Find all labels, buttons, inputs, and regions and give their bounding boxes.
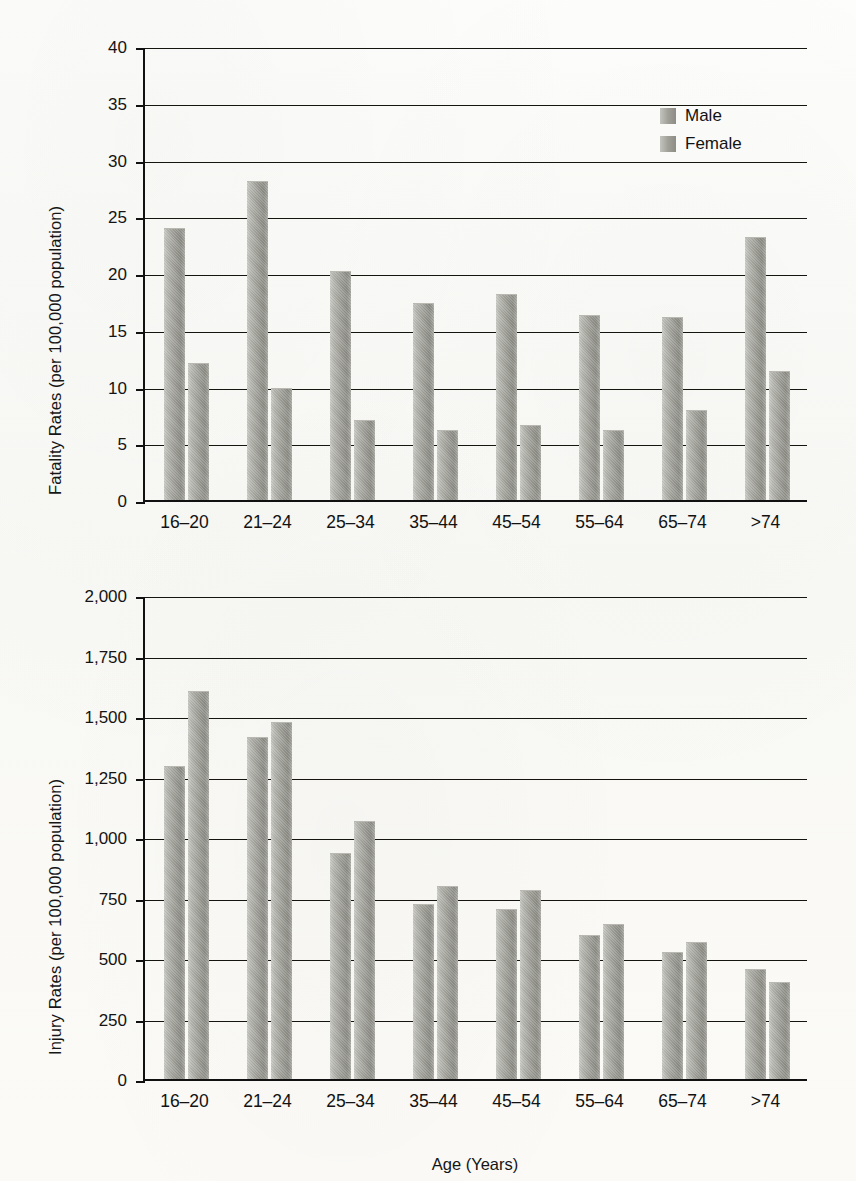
y-tick-mark [136,332,145,334]
bars-injury [145,597,807,1079]
y-tick-label: 250 [99,1011,127,1031]
y-tick-mark [136,718,145,720]
bar-male [247,181,268,500]
y-tick-mark [136,162,145,164]
bar-group [394,597,477,1079]
legend-label-female: Female [685,135,742,152]
y-tick-mark [136,1081,145,1083]
x-tick-label: >74 [724,512,807,533]
y-tick-mark [136,900,145,902]
bar-group [145,48,228,500]
bar-male [745,237,766,500]
y-tick-label: 2,000 [84,587,127,607]
y-tick-mark [136,48,145,50]
y-tick-mark [136,779,145,781]
x-axis-title: Age (Years) [143,1155,807,1174]
x-tick-label: 35–44 [392,512,475,533]
x-tick-label: 25–34 [309,1091,392,1112]
y-tick-label: 0 [118,492,127,512]
plot-area-injury [143,597,807,1081]
y-tick-label: 30 [108,152,127,172]
bar-female [271,388,292,500]
bar-female [603,924,624,1079]
legend-label-male: Male [685,107,722,124]
x-tick-label: 16–20 [143,512,226,533]
bar-male [247,737,268,1079]
x-tick-label: 16–20 [143,1091,226,1112]
y-tick-mark [136,389,145,391]
bar-male [662,952,683,1079]
bar-female [603,430,624,500]
x-tick-label: 65–74 [641,1091,724,1112]
bar-female [686,410,707,500]
bar-female [437,886,458,1079]
bar-group [726,597,809,1079]
bar-group [477,48,560,500]
y-tick-label: 0 [118,1071,127,1091]
legend-swatch-male-icon [660,108,676,124]
y-tick-label: 1,750 [84,648,127,668]
bar-male [413,904,434,1079]
bar-female [188,691,209,1079]
x-tick-label: 21–24 [226,512,309,533]
bar-female [354,420,375,500]
bar-female [271,722,292,1079]
figure-fatality-and-injury-rates-by-age: Fatality Rates (per 100,000 population) … [0,0,856,1181]
y-tick-mark [136,218,145,220]
bar-male [662,317,683,500]
bar-male [330,853,351,1079]
y-tick-mark [136,597,145,599]
y-axis-title-fatality: Fatality Rates (per 100,000 population) [46,206,65,495]
bar-male [164,766,185,1079]
bar-group [477,597,560,1079]
y-tick-label: 1,500 [84,708,127,728]
bar-female [437,430,458,500]
y-tick-label: 10 [108,379,127,399]
chart-injury-rates: Injury Rates (per 100,000 population) 02… [0,555,856,1181]
y-tick-label: 15 [108,322,127,342]
legend-item-female: Female [660,133,742,154]
bar-group [228,597,311,1079]
x-tick-label: >74 [724,1091,807,1112]
y-tick-mark [136,275,145,277]
bar-male [164,228,185,500]
x-tick-label: 35–44 [392,1091,475,1112]
y-tick-mark [136,658,145,660]
y-tick-label: 1,000 [84,829,127,849]
bar-female [188,363,209,500]
bar-group [560,597,643,1079]
bar-male [496,909,517,1079]
y-tick-mark [136,960,145,962]
bar-female [769,371,790,500]
chart-fatality-rates: Fatality Rates (per 100,000 population) … [0,0,856,555]
bar-female [686,942,707,1079]
y-tick-label: 750 [99,890,127,910]
y-tick-label: 35 [108,95,127,115]
bar-male [413,303,434,500]
y-tick-mark [136,1021,145,1023]
x-tick-label: 45–54 [475,512,558,533]
x-tick-label: 21–24 [226,1091,309,1112]
y-tick-mark [136,839,145,841]
y-tick-label: 5 [118,435,127,455]
y-tick-label: 500 [99,950,127,970]
bar-group [560,48,643,500]
bar-group [228,48,311,500]
x-tick-label: 55–64 [558,1091,641,1112]
bar-group [145,597,228,1079]
bar-male [579,315,600,500]
legend-swatch-female-icon [660,136,676,152]
y-tick-label: 40 [108,38,127,58]
y-tick-label: 25 [108,208,127,228]
x-tick-label: 55–64 [558,512,641,533]
bar-male [496,294,517,500]
bar-group [311,597,394,1079]
y-tick-mark [136,502,145,504]
y-tick-label: 1,250 [84,769,127,789]
legend-fatality: Male Female [660,105,742,161]
bar-male [745,969,766,1079]
x-tick-label: 45–54 [475,1091,558,1112]
x-tick-label: 65–74 [641,512,724,533]
legend-item-male: Male [660,105,742,126]
bar-female [520,890,541,1079]
